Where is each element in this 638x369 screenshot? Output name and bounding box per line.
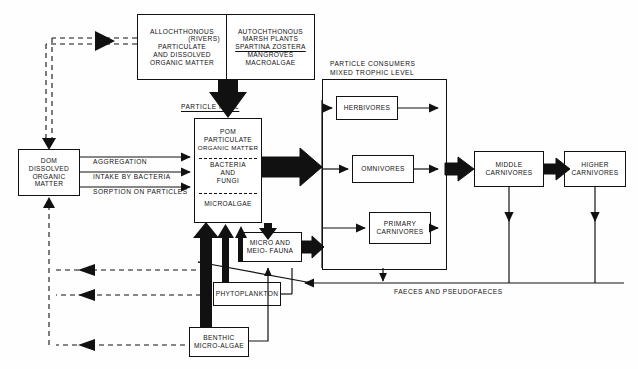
pool-to-meiofauna-arrow xyxy=(259,223,277,240)
middle-to-higher-carnivores-arrow xyxy=(544,158,570,180)
faeces-return-path xyxy=(198,262,624,283)
dashed-arrowheads xyxy=(42,31,115,351)
pool-to-consumers-thick-arrow xyxy=(262,148,322,186)
benthic-to-meiofauna-link xyxy=(249,268,268,341)
producer-uptake-arrows xyxy=(193,222,247,327)
connector-overlay xyxy=(0,0,638,369)
consumer-outputs xyxy=(398,108,438,228)
dashed-recycling-network xyxy=(46,38,210,345)
consumers-to-middle-carnivores-arrow xyxy=(445,157,474,181)
meiofauna-to-consumers-arrow xyxy=(302,236,324,258)
food-web-diagram: ALLOCHTHONOUS (RIVERS) PARTICULATE AND D… xyxy=(0,0,638,369)
sources-to-pool-thick-arrow xyxy=(209,80,247,118)
dom-to-pool-arrows xyxy=(80,157,190,187)
phytoplankton-right-stub xyxy=(281,268,292,294)
consumers-distribution-spine xyxy=(322,100,365,268)
